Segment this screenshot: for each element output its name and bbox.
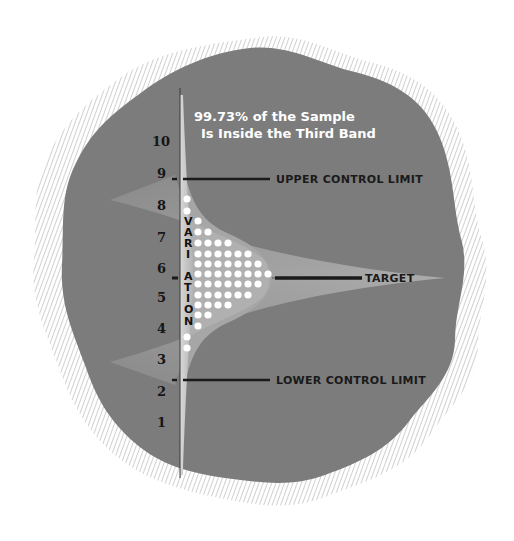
sample-dot [244,260,251,267]
sample-dot [204,270,211,277]
sample-dot [234,270,241,277]
sample-dot [224,291,231,298]
sample-dot [204,301,211,308]
svg-text:5: 5 [157,290,166,305]
sample-dot [194,270,201,277]
sample-dot [183,344,190,351]
svg-text:10: 10 [152,134,170,149]
variation-label: V A R I A T I O N [184,215,193,328]
svg-text:3: 3 [157,352,166,367]
sample-dot [244,291,251,298]
sample-dot [194,291,201,298]
sample-dot [214,239,221,246]
svg-text:1: 1 [157,415,166,430]
sample-dot [224,250,231,257]
sample-dot [224,260,231,267]
sample-dot [234,260,241,267]
sample-dot [183,195,190,202]
sample-dot [194,301,201,308]
sample-dot [204,291,211,298]
sample-dot [183,207,190,214]
sample-dot [234,291,241,298]
sample-dot [254,260,261,267]
sample-dot [224,301,231,308]
sample-dot [244,280,251,287]
sample-dot [194,260,201,267]
sample-dot [264,270,271,277]
sample-dot [214,260,221,267]
sample-dot [183,333,190,340]
sample-dot [204,311,211,318]
sample-dot [194,239,201,246]
sample-dot [194,228,201,235]
sample-dot [214,301,221,308]
svg-text:2: 2 [157,384,166,399]
sample-dot [254,270,261,277]
target-label: TARGET [365,272,415,285]
svg-text:4: 4 [157,321,166,336]
sample-dot [204,239,211,246]
sample-dot [224,280,231,287]
svg-text:7: 7 [157,230,166,245]
sample-dot [194,322,201,329]
title-line-2: Is Inside the Third Band [201,126,376,141]
svg-text:9: 9 [157,166,166,181]
sample-dot [224,239,231,246]
sample-dot [254,280,261,287]
lcl-label: LOWER CONTROL LIMIT [276,374,426,387]
sample-dot [224,270,231,277]
title-line-1: 99.73% of the Sample [194,109,355,124]
svg-text:6: 6 [157,261,166,276]
sample-dot [194,250,201,257]
svg-text:N: N [184,315,193,328]
sample-dot [214,270,221,277]
sample-dot [234,280,241,287]
ucl-label: UPPER CONTROL LIMIT [276,173,423,186]
sample-dot [204,260,211,267]
sample-dot [194,311,201,318]
sample-dot [204,250,211,257]
sample-dot [204,280,211,287]
sample-dot [204,228,211,235]
sample-dot [244,250,251,257]
svg-text:8: 8 [157,198,166,213]
sample-dot [214,291,221,298]
sample-dot [214,250,221,257]
sample-dot [244,270,251,277]
sample-dot [234,250,241,257]
svg-text:I: I [186,248,190,261]
sample-dot [194,217,201,224]
control-chart-diagram: 99.73% of the Sample Is Inside the Third… [0,0,514,541]
sample-dot [214,280,221,287]
sample-dot [194,280,201,287]
